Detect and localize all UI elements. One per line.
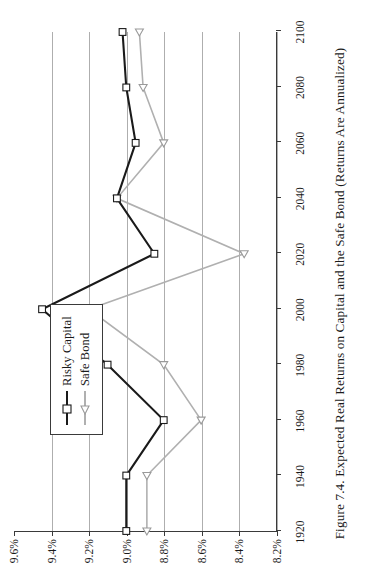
x-axis-label: 2020 [294, 243, 306, 266]
legend-label-safe-bond: Safe Bond [78, 333, 93, 386]
triangle-marker-icon [79, 391, 91, 425]
triangle-marker-icon [143, 528, 151, 535]
y-axis-label: 8.4% [233, 532, 245, 563]
x-axis-label: 2080 [294, 76, 306, 99]
x-axis-label: 1980 [294, 354, 306, 377]
x-axis-label: 1960 [294, 409, 306, 432]
figure-container: Risky Capital Safe Bond 9.6%9.4%9.2%9.0%… [0, 0, 371, 587]
x-axis-tick [276, 363, 281, 364]
legend-item-risky-capital: Risky Capital [58, 316, 76, 425]
square-marker-icon [61, 391, 73, 425]
gridline [277, 32, 278, 531]
y-axis-label: 8.8% [158, 532, 170, 563]
square-marker-icon [119, 29, 126, 36]
x-axis-tick [276, 474, 281, 475]
series-layer [14, 32, 276, 531]
x-axis-tick [276, 30, 281, 31]
y-axis-label: 9.4% [46, 532, 58, 563]
triangle-marker-icon [135, 29, 143, 36]
x-axis-label: 2100 [294, 21, 306, 44]
legend-item-safe-bond: Safe Bond [76, 316, 94, 425]
y-axis-label: 9.2% [83, 532, 95, 563]
x-axis-tick [276, 252, 281, 253]
x-axis-label: 1920 [294, 521, 306, 544]
x-axis-tick [276, 419, 281, 420]
legend-label-risky-capital: Risky Capital [60, 316, 75, 386]
chart-legend: Risky Capital Safe Bond [50, 304, 103, 435]
x-axis-tick [276, 308, 281, 309]
x-axis-tick [276, 197, 281, 198]
figure-caption: Figure 7.4. Expected Real Returns on Cap… [332, 0, 348, 587]
triangle-marker-icon [139, 84, 147, 91]
chart-plot-area: Risky Capital Safe Bond 9.6%9.4%9.2%9.0%… [0, 0, 325, 587]
square-marker-icon [114, 195, 121, 202]
y-axis-label: 9.0% [121, 532, 133, 563]
x-axis-label: 1940 [294, 465, 306, 488]
y-axis-label: 8.2% [271, 532, 283, 563]
x-axis-tick [276, 530, 281, 531]
square-marker-icon [160, 417, 167, 424]
plot-frame: Risky Capital Safe Bond [14, 32, 277, 532]
square-marker-icon [104, 361, 111, 368]
square-marker-icon [123, 472, 130, 479]
square-marker-icon [151, 250, 158, 257]
y-axis-label: 8.6% [196, 532, 208, 563]
x-axis-label: 2000 [294, 298, 306, 321]
x-axis-tick [276, 86, 281, 87]
y-axis-label: 9.6% [8, 532, 20, 563]
series-line-safe-bond [89, 32, 244, 531]
square-marker-icon [123, 84, 130, 91]
triangle-marker-icon [143, 473, 151, 480]
square-marker-icon [39, 306, 46, 313]
x-axis-label: 2060 [294, 132, 306, 155]
x-axis-tick [276, 141, 281, 142]
series-line-risky-capital [42, 32, 164, 531]
x-axis-label: 2040 [294, 187, 306, 210]
square-marker-icon [132, 139, 139, 146]
